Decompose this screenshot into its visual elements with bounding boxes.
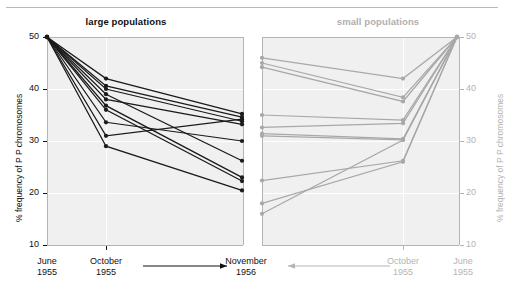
figure-root: large populations small populations 5050… — [0, 0, 504, 297]
time-arrow-small — [0, 0, 504, 297]
